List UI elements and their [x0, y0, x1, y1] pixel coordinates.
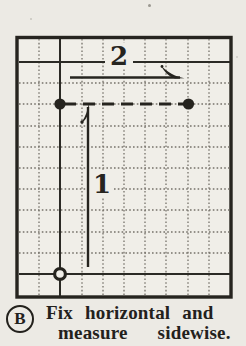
left-point-dot — [54, 98, 65, 109]
measure-arrow-1-head-tip — [80, 120, 83, 123]
label-vertical-measure: 1 — [91, 171, 113, 197]
label-horizontal-measure: 2 — [105, 43, 133, 69]
figure-badge-letter: B — [14, 309, 25, 329]
measure-arrow-2-head-tip — [161, 65, 164, 68]
right-point-dot — [183, 98, 194, 109]
caption-line-2: measure sidewise. — [58, 322, 231, 344]
figure-badge-circle: B — [6, 305, 34, 333]
caption-line-1: Fix horizontal and — [46, 302, 214, 324]
origin-open-dot — [55, 269, 66, 280]
scanned-figure-page: 2 1 B Fix horizontal and measure sidewis… — [0, 0, 246, 346]
